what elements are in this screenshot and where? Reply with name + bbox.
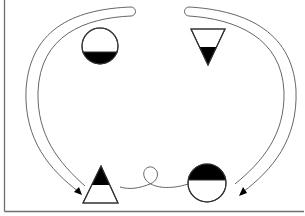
left-arrow-end-cap bbox=[131, 7, 136, 16]
top-left-circle-shape bbox=[80, 28, 120, 66]
diagram-canvas bbox=[0, 0, 304, 216]
left-arrow-outer-line bbox=[26, 7, 131, 192]
left-curved-arrow bbox=[26, 7, 136, 195]
frame bbox=[5, 0, 305, 212]
right-arrow-end-cap bbox=[185, 7, 190, 16]
bottom-right-circle-shape bbox=[186, 162, 228, 202]
right-arrowhead-icon bbox=[239, 187, 247, 196]
top-right-triangle-shape bbox=[190, 29, 226, 67]
left-arrowhead-icon bbox=[74, 187, 82, 195]
bottom-left-triangle-shape bbox=[82, 164, 120, 203]
loop-connector-line bbox=[120, 167, 188, 189]
